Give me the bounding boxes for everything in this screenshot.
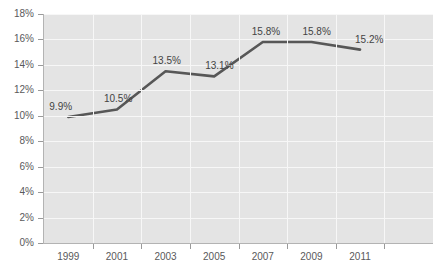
- gridline-vertical: [141, 14, 142, 243]
- y-tick-mark: [38, 116, 43, 117]
- plot-area: [44, 14, 433, 243]
- gridline-vertical: [336, 14, 337, 243]
- y-tick-label: 8%: [20, 136, 34, 146]
- y-tick-label: 4%: [20, 187, 34, 197]
- data-point-label: 15.2%: [355, 34, 383, 45]
- y-tick-mark: [38, 243, 43, 244]
- y-tick-mark: [38, 65, 43, 66]
- y-tick-mark: [38, 218, 43, 219]
- x-tick-label: 2001: [92, 251, 142, 262]
- x-tick-mark: [239, 244, 240, 249]
- x-tick-mark: [336, 244, 337, 249]
- y-tick-label: 12%: [14, 85, 34, 95]
- x-tick-label: 2005: [189, 251, 239, 262]
- y-tick-label: 10%: [14, 111, 34, 121]
- x-tick-mark: [287, 244, 288, 249]
- y-tick-label: 16%: [14, 34, 34, 44]
- y-tick-label: 14%: [14, 60, 34, 70]
- data-point-label: 13.1%: [205, 60, 233, 71]
- gridline-vertical: [287, 14, 288, 243]
- x-tick-label: 2003: [141, 251, 191, 262]
- x-tick-label: 1999: [43, 251, 93, 262]
- x-tick-mark: [190, 244, 191, 249]
- x-tick-label: 2009: [286, 251, 336, 262]
- data-point-label: 10.5%: [104, 93, 132, 104]
- gridline-vertical: [384, 14, 385, 243]
- line-chart: 0%2%4%6%8%10%12%14%16%18% 19992001200320…: [0, 0, 447, 273]
- y-tick-mark: [38, 192, 43, 193]
- y-tick-mark: [38, 167, 43, 168]
- series-line-path: [68, 42, 360, 117]
- data-point-label: 15.8%: [252, 26, 280, 37]
- x-axis-spine: [43, 243, 433, 244]
- gridline-vertical: [239, 14, 240, 243]
- y-tick-mark: [38, 141, 43, 142]
- y-tick-label: 6%: [20, 162, 34, 172]
- y-tick-label: 2%: [20, 213, 34, 223]
- x-tick-mark: [384, 244, 385, 249]
- gridline-vertical: [190, 14, 191, 243]
- x-tick-label: 2007: [238, 251, 288, 262]
- y-tick-mark: [38, 90, 43, 91]
- data-point-label: 13.5%: [153, 55, 181, 66]
- x-tick-label: 2011: [335, 251, 385, 262]
- y-tick-mark: [38, 39, 43, 40]
- data-point-label: 9.9%: [49, 101, 72, 112]
- x-tick-mark: [93, 244, 94, 249]
- y-axis-spine: [43, 14, 44, 244]
- y-tick-label: 18%: [14, 9, 34, 19]
- data-point-label: 15.8%: [302, 26, 330, 37]
- y-tick-label: 0%: [20, 238, 34, 248]
- x-tick-mark: [141, 244, 142, 249]
- y-tick-mark: [38, 14, 43, 15]
- gridline-vertical: [93, 14, 94, 243]
